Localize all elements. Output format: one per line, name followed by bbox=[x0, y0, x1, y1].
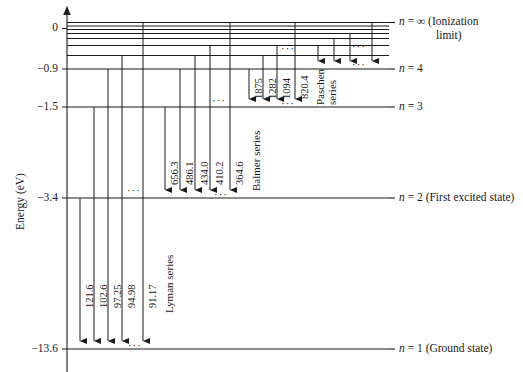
series-label-paschen-line1: Paschen bbox=[314, 69, 326, 105]
level-label-n-2: n = 2 (First excited state) bbox=[399, 191, 514, 203]
ellipsis-n4-upper: ··· bbox=[352, 40, 366, 52]
level-label-n-inf-extra2: limit) bbox=[436, 29, 462, 41]
wavelength-paschen-820-4: 820.4 bbox=[299, 75, 310, 99]
y-tick-minus-1-5: −1.5 bbox=[14, 100, 58, 112]
level-label-n-3-n: n bbox=[399, 100, 405, 112]
level-label-n-4: n = 4 bbox=[399, 62, 423, 74]
level-label-n-1-n: n bbox=[399, 342, 405, 354]
level-label-n-4-n: n bbox=[399, 62, 405, 74]
ellipsis-paschen-upper: ··· bbox=[281, 42, 295, 54]
wavelength-balmer-486-1: 486.1 bbox=[184, 161, 195, 185]
wavelength-paschen-1282: 1282 bbox=[267, 78, 278, 99]
level-label-n-3-val: 3 bbox=[417, 100, 423, 112]
level-label-n-2-val: 2 bbox=[417, 191, 423, 203]
level-label-n-inf-val: ∞ bbox=[417, 15, 425, 27]
ellipsis-balmer-lower: ··· bbox=[214, 188, 228, 200]
level-label-n-inf-extra: (Ionization bbox=[428, 15, 478, 27]
wavelength-lyman-97-25: 97.25 bbox=[112, 284, 123, 308]
y-tick-0: 0 bbox=[14, 21, 58, 33]
wavelength-paschen-1094: 1094 bbox=[281, 78, 292, 99]
level-label-n-inf: n = ∞ (Ionization bbox=[399, 15, 479, 27]
ellipsis-lyman-lower: ··· bbox=[128, 339, 142, 351]
level-label-n-inf-n: n bbox=[399, 15, 405, 27]
level-label-n-2-n: n bbox=[399, 191, 405, 203]
wavelength-balmer-656-3: 656.3 bbox=[169, 161, 180, 185]
energy-level-diagram: Energy (eV) 0 −0.9 −1.5 −3.4 −13.6 n = ∞… bbox=[0, 0, 523, 372]
wavelength-balmer-364-6: 364.6 bbox=[234, 161, 245, 185]
wavelength-balmer-434-0: 434.0 bbox=[199, 161, 210, 185]
y-tick-minus-3-4: −3.4 bbox=[14, 191, 58, 203]
level-label-n-2-extra: (First excited state) bbox=[426, 191, 515, 203]
wavelength-lyman-94-98: 94.98 bbox=[126, 284, 137, 308]
level-label-n-1-extra: (Ground state) bbox=[426, 342, 493, 354]
y-axis bbox=[62, 6, 71, 372]
series-label-paschen-line2: series bbox=[326, 80, 338, 105]
level-label-n-1-val: 1 bbox=[417, 342, 423, 354]
level-label-n-4-val: 4 bbox=[417, 62, 423, 74]
level-label-n-3-eq: = bbox=[408, 100, 415, 112]
ellipsis-paschen-lower: ··· bbox=[281, 97, 295, 109]
series-label-balmer: Balmer series bbox=[250, 131, 262, 191]
level-label-n-1: n = 1 (Ground state) bbox=[399, 342, 492, 354]
wavelength-lyman-102-6: 102.6 bbox=[98, 284, 109, 308]
wavelength-lyman-91-17: 91.17 bbox=[147, 284, 158, 308]
y-axis-arrowhead bbox=[63, 6, 71, 15]
level-label-n-3: n = 3 bbox=[399, 100, 423, 112]
level-label-n-inf-eq: = bbox=[408, 15, 415, 27]
wavelength-paschen-1875: 1875 bbox=[253, 78, 264, 99]
ellipsis-balmer-upper: ··· bbox=[212, 94, 226, 106]
series-label-lyman: Lyman series bbox=[163, 255, 175, 313]
ellipsis-lyman-upper: ··· bbox=[127, 184, 141, 196]
y-tick-minus-13-6: −13.6 bbox=[8, 342, 58, 354]
ellipsis-n4-lower: ··· bbox=[352, 58, 366, 70]
level-label-n-4-eq: = bbox=[408, 62, 415, 74]
y-tick-minus-0-9: −0.9 bbox=[14, 62, 58, 74]
level-label-leaders bbox=[389, 23, 395, 350]
level-label-n-2-eq: = bbox=[408, 191, 415, 203]
level-label-n-1-eq: = bbox=[408, 342, 415, 354]
wavelength-balmer-410-2: 410.2 bbox=[214, 161, 225, 185]
wavelength-lyman-121-6: 121.6 bbox=[84, 284, 95, 308]
